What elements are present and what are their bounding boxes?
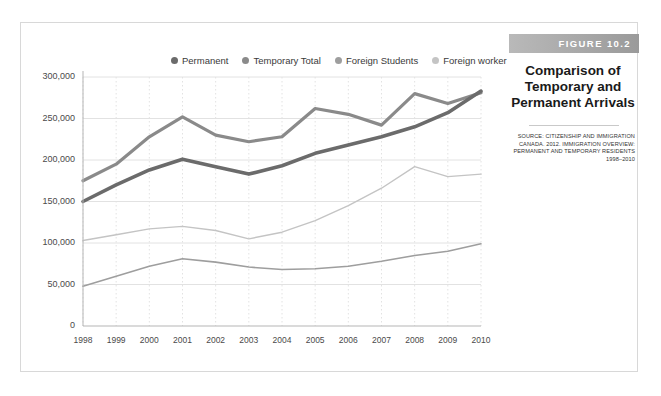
x-axis-tick-label: 2005 <box>298 335 332 345</box>
x-axis-tick-label: 2008 <box>398 335 432 345</box>
series-lines <box>83 91 481 286</box>
x-axis-tick-label: 2001 <box>166 335 200 345</box>
source-line-3: PERMANENT AND TEMPORARY RESIDENTS <box>511 148 635 156</box>
x-axis-tick-label: 2000 <box>132 335 166 345</box>
figure-title-line-2: Temporary and <box>511 79 635 95</box>
source-line-4: 1998–2010 <box>511 156 635 164</box>
y-axis-tick-label: 100,000 <box>27 237 75 247</box>
figure-container: Permanent Temporary Total Foreign Studen… <box>20 22 638 372</box>
x-axis-tick-label: 2009 <box>431 335 465 345</box>
y-axis-tick-label: 200,000 <box>27 154 75 164</box>
chart-svg <box>21 23 501 371</box>
x-axis-tick-label: 2010 <box>464 335 498 345</box>
chart-panel: Permanent Temporary Total Foreign Studen… <box>21 23 501 371</box>
y-axis-tick-label: 0 <box>27 320 75 330</box>
x-axis-tick-label: 1998 <box>66 335 100 345</box>
figure-title: Comparison of Temporary and Permanent Ar… <box>511 63 635 111</box>
x-axis-tick-label: 2006 <box>331 335 365 345</box>
gridlines <box>83 77 481 326</box>
figure-number-band: FIGURE 10.2 <box>509 34 639 53</box>
x-axis-tick-label: 2003 <box>232 335 266 345</box>
y-axis-tick-label: 300,000 <box>27 71 75 81</box>
caption-panel: FIGURE 10.2 Comparison of Temporary and … <box>505 23 639 371</box>
figure-source: SOURCE: CITIZENSHIP AND IMMIGRATION CANA… <box>511 133 635 163</box>
y-axis-tick-label: 50,000 <box>27 279 75 289</box>
y-axis-tick-label: 150,000 <box>27 196 75 206</box>
x-axis-tick-label: 1999 <box>99 335 133 345</box>
source-line-1: SOURCE: CITIZENSHIP AND IMMIGRATION <box>511 133 635 141</box>
caption-divider <box>529 125 619 126</box>
x-axis-tick-label: 2007 <box>365 335 399 345</box>
figure-title-line-1: Comparison of <box>511 63 635 79</box>
plot-area: 050,000100,000150,000200,000250,000300,0… <box>21 23 501 371</box>
x-axis-tick-label: 2004 <box>265 335 299 345</box>
x-axis-tick-label: 2002 <box>199 335 233 345</box>
figure-title-line-3: Permanent Arrivals <box>511 95 635 111</box>
source-line-2: CANADA. 2012. IMMIGRATION OVERVIEW: <box>511 141 635 149</box>
y-axis-tick-label: 250,000 <box>27 113 75 123</box>
